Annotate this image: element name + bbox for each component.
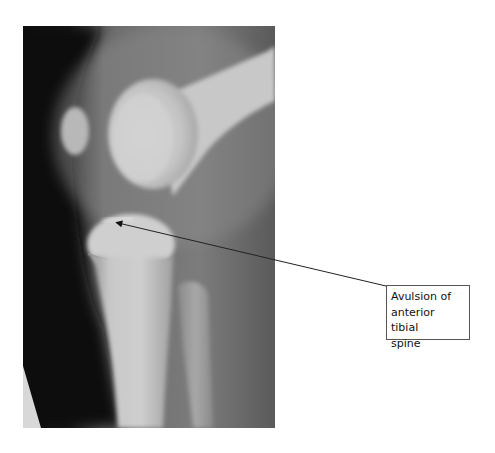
label-line-1: Avulsion of — [391, 289, 465, 305]
knee-xray-image — [23, 26, 275, 428]
label-line-3: spine — [391, 336, 465, 352]
annotation-label: Avulsion of anterior tibial spine — [386, 285, 470, 340]
label-line-2: anterior tibial — [391, 305, 465, 336]
